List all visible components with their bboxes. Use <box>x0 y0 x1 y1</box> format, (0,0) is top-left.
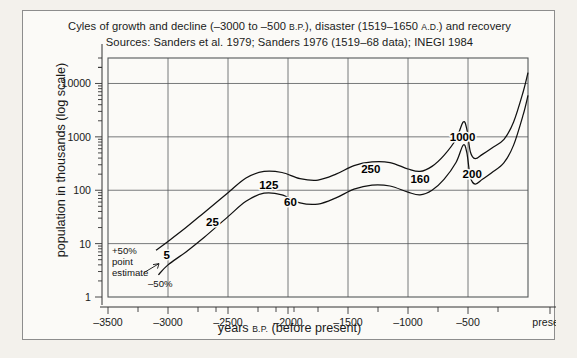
x-axis-group: –3500–3000–2500–2000–1500–1000–500presen… <box>93 307 556 328</box>
data-labels-group: 5525251251256060250250160160100010002002… <box>164 131 482 262</box>
y-axis-group: 110100100010000 <box>62 44 102 305</box>
x-axis-tick-label: –3000 <box>153 316 183 328</box>
data-curve <box>158 95 528 275</box>
x-axis-tick-label: –3500 <box>93 316 123 328</box>
data-label: 200 <box>463 168 482 180</box>
data-label: 5 <box>164 249 171 261</box>
figure-panel: Cyles of growth and decline (–3000 to –5… <box>22 10 555 340</box>
chart-plot-area: 110100100010000 –3500–3000–2500–2000–150… <box>23 11 556 341</box>
x-axis-tick-label: present <box>532 316 556 328</box>
data-label: 60 <box>284 196 297 208</box>
data-label: 160 <box>410 173 429 185</box>
x-axis-tick-label: –2500 <box>213 316 243 328</box>
y-axis-tick-label: 10000 <box>62 77 92 89</box>
x-axis-tick-label: –2000 <box>273 316 303 328</box>
data-label: 125 <box>259 179 279 191</box>
y-axis-tick-label: 1000 <box>67 131 91 143</box>
y-axis-tick-label: 1 <box>85 291 91 303</box>
data-label: 250 <box>361 163 380 175</box>
point-estimate-annotation-line-2: estimate <box>112 267 148 278</box>
data-label: 25 <box>206 216 219 228</box>
lower-band-annotation-label: –50% <box>148 278 173 289</box>
point-estimate-annotation-line-1: point <box>112 256 133 267</box>
x-axis-tick-label: –1500 <box>333 316 363 328</box>
y-axis-tick-label: 100 <box>73 184 91 196</box>
x-axis-tick-label: –1000 <box>393 316 423 328</box>
upper-band-annotation-label: +50% <box>112 245 137 256</box>
x-axis-tick-label: –500 <box>456 316 480 328</box>
data-label: 1000 <box>450 131 476 143</box>
y-axis-tick-label: 10 <box>79 238 91 250</box>
